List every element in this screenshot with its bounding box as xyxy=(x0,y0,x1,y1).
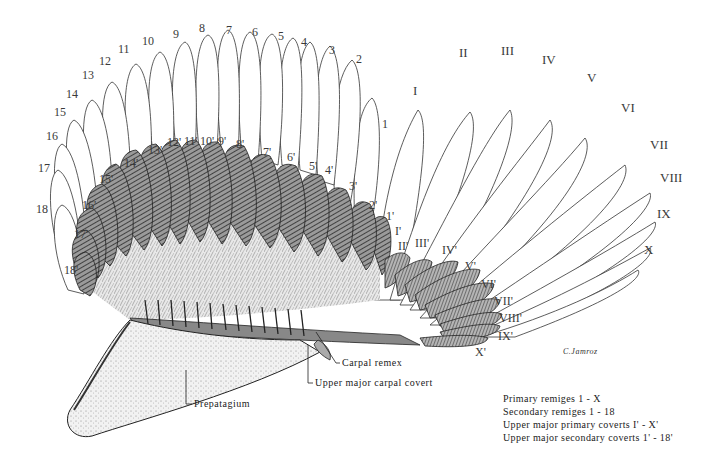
primary-covert-label-IIIp: III' xyxy=(415,237,429,249)
callout-upper-major-carpal-covert: Upper major carpal covert xyxy=(315,378,433,388)
secondary-covert-label-11p: 11' xyxy=(184,135,198,147)
primary-covert-label-IXp: IX' xyxy=(498,330,513,342)
legend: Primary remiges 1 - X Secondary remiges … xyxy=(503,392,673,444)
primary-remex-label-V: V xyxy=(587,72,596,84)
artist-signature: C.Jamroz xyxy=(563,347,598,356)
secondary-covert-label-18p: 18' xyxy=(64,264,78,276)
primary-covert-label-VIIIp: VIII' xyxy=(499,312,522,324)
secondary-covert-label-2p: 2' xyxy=(369,199,377,211)
secondary-covert-label-13p: 13' xyxy=(148,144,162,156)
primary-covert-label-Vp: V' xyxy=(465,260,476,272)
callout-carpal-remex: Carpal remex xyxy=(342,358,402,368)
primary-covert-label-VIIp: VII' xyxy=(494,295,513,307)
secondary-remex-label-7: 7 xyxy=(226,24,232,36)
secondary-remex-label-12: 12 xyxy=(99,55,111,67)
secondary-remex-label-17: 17 xyxy=(38,162,50,174)
legend-item-primary-remiges: Primary remiges 1 - X xyxy=(503,392,673,405)
legend-item-secondary-remiges: Secondary remiges 1 - 18 xyxy=(503,405,673,418)
callout-prepatagium: Prepatagium xyxy=(194,399,250,409)
primary-remex-label-I: I xyxy=(413,85,417,97)
primary-remex-label-III: III xyxy=(501,45,514,57)
secondary-covert-label-14p: 14' xyxy=(124,157,138,169)
secondary-covert-label-17p: 17' xyxy=(74,228,88,240)
secondary-covert-label-7p: 7' xyxy=(263,146,271,158)
primary-covert-label-IVp: IV' xyxy=(442,244,457,256)
secondary-covert-label-16p: 16' xyxy=(82,199,96,211)
secondary-remex-label-13: 13 xyxy=(82,69,94,81)
secondary-remex-label-2: 2 xyxy=(356,53,362,65)
primary-remex-label-IX: IX xyxy=(657,208,671,220)
secondary-remex-label-18: 18 xyxy=(36,203,48,215)
primary-remex-label-VIII: VIII xyxy=(660,172,682,184)
primary-covert-label-IIp: II' xyxy=(398,240,408,252)
secondary-covert-label-9p: 9' xyxy=(218,135,226,147)
secondary-remex-label-9: 9 xyxy=(173,28,179,40)
secondary-covert-label-12p: 12' xyxy=(167,136,181,148)
secondary-covert-label-5p: 5' xyxy=(309,160,317,172)
legend-item-primary-coverts: Upper major primary coverts I' - X' xyxy=(503,418,673,431)
secondary-covert-label-8p: 8' xyxy=(236,138,244,150)
secondary-remex-label-10: 10 xyxy=(142,35,154,47)
secondary-remex-label-11: 11 xyxy=(118,43,130,55)
secondary-remex-label-15: 15 xyxy=(54,106,66,118)
primary-covert-label-Ip: I' xyxy=(395,225,401,237)
secondary-remex-label-1: 1 xyxy=(382,118,388,130)
primary-remex-label-VII: VII xyxy=(650,139,668,151)
primary-remex-label-X: X xyxy=(644,244,653,256)
secondary-remex-label-6: 6 xyxy=(252,26,258,38)
secondary-remex-label-5: 5 xyxy=(278,30,284,42)
secondary-remex-label-4: 4 xyxy=(301,36,307,48)
secondary-remex-label-3: 3 xyxy=(329,44,335,56)
secondary-covert-label-1p: 1' xyxy=(386,210,394,222)
secondary-covert-label-3p: 3' xyxy=(349,180,357,192)
secondary-covert-label-4p: 4' xyxy=(325,164,333,176)
secondary-covert-label-10p: 10' xyxy=(200,135,214,147)
primary-covert-label-Xp: X' xyxy=(475,346,486,358)
primary-remex-label-IV: IV xyxy=(542,54,556,66)
legend-item-secondary-coverts: Upper major secondary coverts 1' - 18' xyxy=(503,431,673,444)
secondary-remex-label-16: 16 xyxy=(46,130,58,142)
secondary-remex-label-14: 14 xyxy=(66,88,78,100)
secondary-covert-label-15p: 15' xyxy=(99,173,113,185)
secondary-remex-label-8: 8 xyxy=(199,22,205,34)
primary-remiges xyxy=(375,110,656,337)
primary-remex-label-II: II xyxy=(459,47,468,59)
primary-remex-label-VI: VI xyxy=(621,102,635,114)
primary-covert-label-VIp: VI' xyxy=(481,278,496,290)
secondary-covert-label-6p: 6' xyxy=(287,151,295,163)
